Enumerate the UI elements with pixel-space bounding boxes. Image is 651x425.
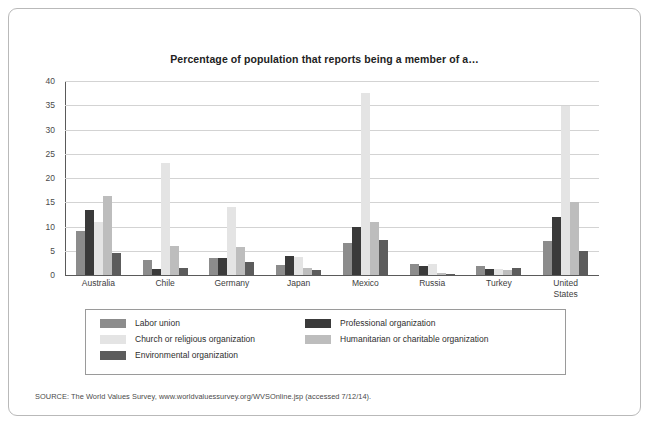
bar xyxy=(561,106,570,275)
y-tick-label-5: 5 xyxy=(50,246,55,256)
bar xyxy=(512,268,521,275)
bar-group xyxy=(132,81,199,275)
legend-swatch-icon xyxy=(100,319,126,328)
bar xyxy=(379,240,388,275)
bar xyxy=(446,274,455,275)
bar xyxy=(312,270,321,275)
bar xyxy=(437,273,446,275)
bar-group xyxy=(65,81,132,275)
bar xyxy=(276,265,285,275)
bar xyxy=(179,268,188,275)
bar xyxy=(552,217,561,275)
x-tick-label: Germany xyxy=(199,278,266,299)
legend-label: Church or religious organization xyxy=(135,334,255,344)
y-tick-label-15: 15 xyxy=(46,197,55,207)
x-tick-label: Mexico xyxy=(332,278,399,299)
bar-group xyxy=(199,81,266,275)
bar xyxy=(227,207,236,275)
x-tick-label: Turkey xyxy=(466,278,533,299)
y-tick-label-25: 25 xyxy=(46,149,55,159)
bar xyxy=(352,227,361,276)
bar xyxy=(143,260,152,275)
x-tick-label: Russia xyxy=(399,278,466,299)
legend-item: Labor union xyxy=(100,318,305,328)
legend-column-left: Labor unionChurch or religious organizat… xyxy=(100,318,305,360)
y-tick-label-35: 35 xyxy=(46,100,55,110)
bar xyxy=(476,266,485,275)
legend-column-right: Professional organizationHumanitarian or… xyxy=(305,318,488,360)
legend-label: Labor union xyxy=(135,318,180,328)
bar-group xyxy=(265,81,332,275)
bar xyxy=(161,163,170,275)
bar xyxy=(294,257,303,275)
bar xyxy=(170,246,179,275)
bar xyxy=(85,210,94,275)
bar xyxy=(570,202,579,275)
bar xyxy=(579,251,588,275)
legend-label: Professional organization xyxy=(340,318,435,328)
bar-group xyxy=(332,81,399,275)
legend-swatch-icon xyxy=(100,335,126,344)
bar xyxy=(112,253,121,275)
bar xyxy=(494,269,503,275)
bar-groups xyxy=(65,81,599,275)
source-note: SOURCE: The World Values Survey, www.wor… xyxy=(35,392,371,401)
legend-label: Environmental organization xyxy=(135,350,238,360)
bar xyxy=(410,264,419,275)
bar-group xyxy=(466,81,533,275)
y-axis-tick-labels: 0510152025303540 xyxy=(9,81,61,275)
legend-swatch-icon xyxy=(305,335,331,344)
bar xyxy=(543,241,552,275)
bar xyxy=(76,231,85,275)
bar-group xyxy=(532,81,599,275)
chart-legend: Labor unionChurch or religious organizat… xyxy=(85,309,566,375)
bar xyxy=(428,264,437,275)
bar xyxy=(218,258,227,275)
legend-item: Professional organization xyxy=(305,318,488,328)
y-tick-label-0: 0 xyxy=(50,270,55,280)
legend-swatch-icon xyxy=(305,319,331,328)
bar xyxy=(503,270,512,275)
bar xyxy=(485,269,494,275)
bar xyxy=(361,93,370,275)
bar xyxy=(245,262,254,275)
plot-area xyxy=(65,81,599,275)
bar xyxy=(152,269,161,275)
bar xyxy=(303,268,312,275)
gridline-0 xyxy=(65,275,599,276)
bar xyxy=(370,222,379,275)
y-tick-label-20: 20 xyxy=(46,173,55,183)
bar xyxy=(236,247,245,275)
x-tick-label: Japan xyxy=(265,278,332,299)
bar xyxy=(343,243,352,275)
chart-figure: Percentage of population that reports be… xyxy=(8,8,641,416)
y-tick-label-30: 30 xyxy=(46,125,55,135)
legend-item: Church or religious organization xyxy=(100,334,305,344)
bar xyxy=(419,266,428,275)
y-tick-label-40: 40 xyxy=(46,76,55,86)
y-tick-label-10: 10 xyxy=(46,222,55,232)
x-tick-label: Chile xyxy=(132,278,199,299)
bar xyxy=(103,196,112,275)
bar-group xyxy=(399,81,466,275)
x-tick-label: Australia xyxy=(65,278,132,299)
legend-swatch-icon xyxy=(100,351,126,360)
legend-label: Humanitarian or charitable organization xyxy=(340,334,488,344)
bar xyxy=(94,222,103,275)
bar xyxy=(285,256,294,275)
x-axis-tick-labels: AustraliaChileGermanyJapanMexicoRussiaTu… xyxy=(65,278,599,299)
legend-item: Environmental organization xyxy=(100,350,305,360)
chart-title: Percentage of population that reports be… xyxy=(9,53,640,65)
x-tick-label: UnitedStates xyxy=(532,278,599,299)
legend-item: Humanitarian or charitable organization xyxy=(305,334,488,344)
bar xyxy=(209,258,218,275)
